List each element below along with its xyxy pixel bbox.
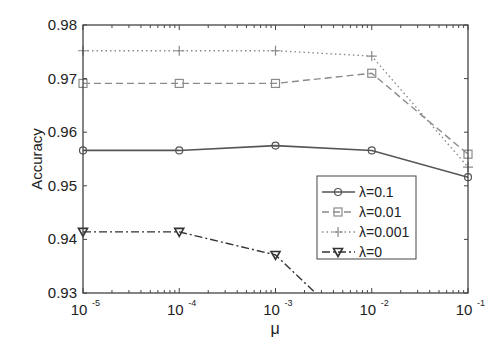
- x-tick-label: 10: [456, 301, 473, 318]
- y-tick-label: 0.95: [48, 177, 77, 194]
- x-tick-exponent: -3: [285, 298, 293, 308]
- y-axis-label: Accuracy: [28, 128, 45, 190]
- x-tick-labels: 10-510-410-310-210-1: [71, 298, 485, 318]
- y-tick-label: 0.94: [48, 230, 77, 247]
- x-tick-label: 10: [263, 301, 280, 318]
- x-tick-label: 10: [359, 301, 376, 318]
- x-tick-exponent: -5: [92, 298, 100, 308]
- x-tick-exponent: -1: [477, 298, 485, 308]
- y-tick-label: 0.97: [48, 70, 77, 87]
- x-axis-label: μ: [270, 320, 279, 337]
- x-tick-label: 10: [71, 301, 88, 318]
- legend-entry-label: λ=0.001: [359, 224, 409, 240]
- legend-entry-label: λ=0.1: [359, 184, 394, 200]
- x-tick-exponent: -4: [188, 298, 196, 308]
- accuracy-vs-mu-chart: 0.930.940.950.960.970.98 10-510-410-310-…: [0, 0, 501, 358]
- legend-entry-label: λ=0: [359, 244, 382, 260]
- y-tick-label: 0.96: [48, 123, 77, 140]
- x-tick-exponent: -2: [381, 298, 389, 308]
- legend-entry-label: λ=0.01: [359, 204, 402, 220]
- y-tick-label: 0.98: [48, 16, 77, 33]
- legend: λ=0.1λ=0.01λ=0.001λ=0: [317, 176, 416, 260]
- y-tick-label: 0.93: [48, 284, 77, 301]
- x-tick-label: 10: [167, 301, 184, 318]
- y-tick-labels: 0.930.940.950.960.970.98: [48, 16, 77, 301]
